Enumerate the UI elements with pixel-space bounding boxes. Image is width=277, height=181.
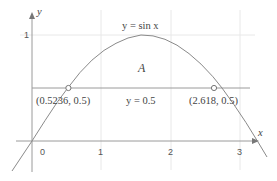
x-axis-label: x xyxy=(257,127,263,138)
x-tick-3: 3 xyxy=(237,147,242,157)
x-tick-2: 2 xyxy=(168,147,173,157)
region-label: A xyxy=(137,61,146,75)
intersection-point-right xyxy=(211,85,216,90)
axes xyxy=(16,16,254,172)
intersection-point-left xyxy=(66,85,71,90)
grid xyxy=(20,10,255,170)
y-axis-arrow-icon xyxy=(29,12,35,19)
sine-area-diagram: 0 1 2 3 1 y x y = sin x A y = 0.5 (0.523… xyxy=(0,0,277,181)
y-tick-1: 1 xyxy=(24,30,29,40)
point-label-left: (0.5236, 0.5) xyxy=(36,95,91,107)
y-axis-label: y xyxy=(36,6,42,17)
line-label: y = 0.5 xyxy=(126,95,156,106)
x-tick-0: 0 xyxy=(40,147,45,157)
x-tick-1: 1 xyxy=(98,147,103,157)
point-label-right: (2.618, 0.5) xyxy=(189,95,238,107)
curve-label: y = sin x xyxy=(122,20,159,31)
